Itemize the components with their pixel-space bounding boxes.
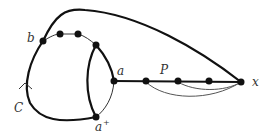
label-b: b [27,31,35,45]
cycle-C-top [43,34,96,45]
label-a-plus: a [95,120,102,134]
node-b [40,38,47,45]
label-a: a [117,64,124,78]
cycle-orientation-mark [19,83,32,89]
node [206,78,213,85]
cycle-C-right-upper [96,45,114,81]
chord [87,45,96,117]
node [75,31,82,38]
label-P: P [159,63,169,77]
node [57,31,64,38]
node-a [111,78,118,85]
node [93,42,100,49]
node [143,78,150,85]
node [175,78,182,85]
label-x: x [252,75,259,89]
cycle-C-left [27,41,96,120]
graph-diagram: b C a a + P x [0,0,271,138]
node-x [238,79,245,86]
thin-arc-1 [146,82,241,96]
edge-b-to-x [43,10,241,82]
label-a-plus-sup: + [103,118,110,127]
cycle-C-right-lower [96,81,114,117]
label-C: C [14,101,23,115]
